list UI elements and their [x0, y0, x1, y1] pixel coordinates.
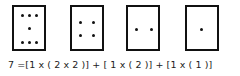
dot — [92, 21, 95, 24]
dot — [150, 28, 153, 31]
dot — [200, 28, 203, 31]
dot — [21, 14, 24, 17]
dot — [79, 34, 82, 37]
equation-text: 7 =[1 x ( 2 x 2 )] + [ 1 x ( 2 )] + [1 x… — [8, 59, 212, 70]
dot — [28, 41, 31, 44]
dot — [21, 41, 24, 44]
dot — [35, 14, 38, 17]
dot — [35, 41, 38, 44]
box-two-dots — [126, 5, 160, 51]
dot — [92, 34, 95, 37]
dot — [28, 14, 31, 17]
box-four-dots — [70, 5, 104, 51]
dot — [28, 27, 31, 30]
dot — [135, 28, 138, 31]
dot — [79, 21, 82, 24]
